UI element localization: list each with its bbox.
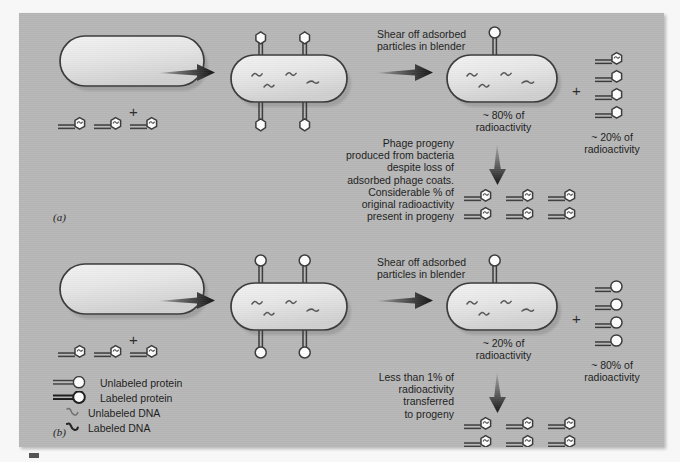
bacterium-uninfected-a (60, 36, 208, 91)
arrow-progeny-b (489, 372, 506, 413)
legend-label: Labeled DNA (88, 421, 150, 435)
legend-label: Unlabeled DNA (88, 406, 160, 420)
dna-unlabeled-icon (64, 406, 84, 420)
plus-sign-b-start: + (129, 332, 138, 347)
shear-label-a: Shear off adsorbed particles in blender (377, 28, 497, 52)
progeny-note-a: Phage progeny produced from bacteria des… (304, 137, 454, 222)
arrow-progeny-a (489, 144, 506, 185)
phage-ghosts-a (595, 53, 622, 119)
caption-marker (29, 453, 39, 458)
bacterium-uninfected-b (60, 264, 208, 319)
progeny-phages-b (464, 418, 575, 447)
phage-ghosts-b (595, 281, 622, 346)
bacterium-radioactivity-b: ~ 20% of radioactivity (451, 337, 556, 361)
figure-stage: + Shear off adsorbed particles in blende… (0, 0, 680, 462)
ghost-radioactivity-b: ~ 80% of radioactivity (564, 359, 660, 383)
phage-labeled-protein-icon (52, 391, 96, 405)
panel-letter-a: (a) (53, 211, 66, 223)
dna-labeled-icon (64, 421, 84, 435)
plus-sign-a-start: + (129, 104, 138, 119)
phage-group-a-start (58, 118, 157, 130)
phage-unlabeled-protein-icon (52, 376, 96, 390)
bacterium-infected-b (231, 255, 351, 358)
legend-label: Labeled protein (100, 391, 172, 405)
shear-label-b: Shear off adsorbed particles in blender (377, 256, 497, 280)
arrow-blender-a (375, 64, 433, 81)
bacterium-infected-a (231, 32, 351, 131)
ghost-radioactivity-a: ~ 20% of radioactivity (564, 131, 660, 155)
plus-sign-a-ghosts: + (572, 83, 581, 98)
plus-sign-b-ghosts: + (572, 311, 581, 326)
arrow-blender-b (375, 292, 433, 309)
bacterium-radioactivity-a: ~ 80% of radioactivity (451, 109, 556, 133)
legend-label: Unlabeled protein (100, 376, 182, 390)
progeny-note-b: Less than 1% of radioactivity transferre… (314, 371, 454, 420)
progeny-phages-a (464, 190, 575, 220)
phage-group-b-start (58, 346, 157, 358)
diagram-panel: + Shear off adsorbed particles in blende… (19, 13, 664, 447)
